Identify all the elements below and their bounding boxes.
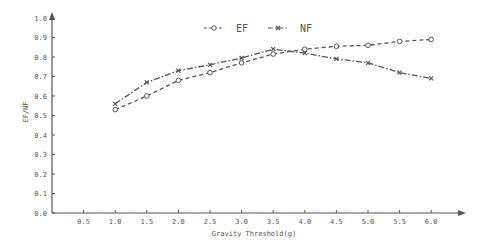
x-tick-label: 4.0: [298, 218, 311, 226]
x-tick-label: 5.5: [393, 218, 406, 226]
circle-marker-icon: [176, 78, 181, 83]
x-tick-label: 6.0: [425, 218, 438, 226]
x-axis-label: Gravity Threshold(g): [212, 230, 296, 238]
y-axis-arrow-icon: [49, 12, 55, 20]
x-marker-icon: [429, 76, 433, 80]
x-tick-label: 2.0: [172, 218, 185, 226]
x-tick-label: 4.5: [330, 218, 343, 226]
x-marker-icon: [271, 47, 275, 51]
y-tick-label: 0.2: [34, 171, 47, 179]
x-marker-icon: [113, 102, 117, 106]
series-lines: [113, 37, 434, 112]
circle-marker-icon: [429, 37, 434, 42]
y-tick-label: 0.3: [34, 151, 47, 159]
circle-marker-icon: [239, 61, 244, 66]
y-tick-label: 0.1: [34, 190, 47, 198]
x-tick-label: 5.0: [362, 218, 375, 226]
x-tick-label: 1.0: [109, 218, 122, 226]
y-tick-label: 0.0: [34, 210, 47, 218]
circle-marker-icon: [113, 107, 118, 112]
y-tick-label: 0.4: [34, 132, 47, 140]
circle-marker-icon: [271, 52, 276, 57]
x-tick-label: 0.5: [77, 218, 90, 226]
y-tick-label: 0.9: [34, 34, 47, 42]
axes: 0.51.01.52.02.53.03.54.04.55.05.56.00.00…: [34, 12, 466, 226]
line-chart: 0.51.01.52.02.53.03.54.04.55.05.56.00.00…: [0, 0, 489, 250]
x-axis-arrow-icon: [458, 210, 466, 216]
y-tick-label: 0.5: [34, 112, 47, 120]
legend-label-nf: NF: [300, 23, 312, 34]
y-tick-label: 0.6: [34, 93, 47, 101]
x-tick-label: 3.0: [235, 218, 248, 226]
legend-circle-icon: [212, 26, 216, 30]
circle-marker-icon: [334, 44, 339, 49]
circle-marker-icon: [145, 94, 150, 99]
x-tick-label: 1.5: [140, 218, 153, 226]
circle-marker-icon: [397, 39, 402, 44]
y-tick-label: 0.7: [34, 73, 47, 81]
x-tick-label: 3.5: [267, 218, 280, 226]
circle-marker-icon: [208, 70, 213, 75]
circle-marker-icon: [366, 43, 371, 48]
legend-label-ef: EF: [236, 23, 248, 34]
series-nf-line: [115, 49, 431, 104]
y-tick-label: 0.8: [34, 54, 47, 62]
y-tick-label: 1.0: [34, 15, 47, 23]
x-tick-label: 2.5: [204, 218, 217, 226]
legend: EFNF: [204, 23, 312, 34]
